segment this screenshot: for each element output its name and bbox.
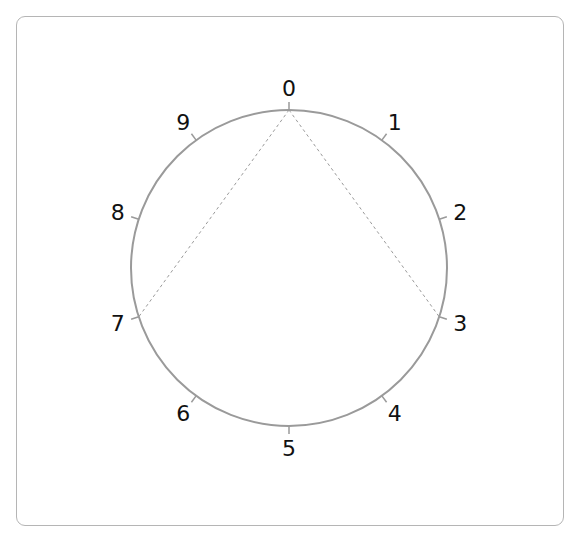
point-label-5: 5	[282, 436, 296, 461]
tick-mark-1	[382, 134, 387, 140]
point-label-0: 0	[282, 76, 296, 101]
point-label-6: 6	[176, 401, 190, 426]
tick-mark-8	[131, 217, 139, 219]
point-label-9: 9	[176, 110, 190, 135]
chord-0-7	[139, 110, 289, 317]
point-labels: 0123456789	[111, 76, 467, 461]
point-label-1: 1	[388, 110, 402, 135]
point-label-8: 8	[111, 200, 125, 225]
tick-mark-7	[131, 317, 139, 319]
chord-0-3	[289, 110, 439, 317]
tick-mark-6	[191, 396, 196, 402]
tick-mark-9	[191, 134, 196, 140]
tick-mark-4	[382, 396, 387, 402]
tick-marks	[131, 102, 447, 434]
point-label-3: 3	[453, 311, 467, 336]
point-label-7: 7	[111, 311, 125, 336]
tick-mark-2	[439, 217, 447, 219]
point-label-2: 2	[453, 200, 467, 225]
circle-diagram: 0123456789	[0, 0, 581, 539]
point-label-4: 4	[388, 401, 402, 426]
tick-mark-3	[439, 317, 447, 319]
dashed-chords	[139, 110, 440, 317]
main-circle	[131, 110, 447, 426]
